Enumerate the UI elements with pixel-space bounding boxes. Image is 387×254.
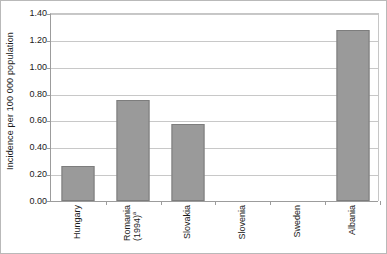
x-axis-category-label: Slovakia: [182, 205, 192, 239]
bar-slot: [270, 14, 325, 201]
x-axis-tickmark: [380, 201, 381, 205]
x-axis-label-line1: Hungary: [72, 205, 82, 239]
y-axis-tick-labels: 1.401.201.000.800.600.400.200.00: [19, 13, 50, 201]
y-axis-tick-label: 1.40: [29, 8, 47, 18]
bar-slot: [51, 14, 106, 201]
x-axis-category-label: Albania: [347, 205, 357, 235]
bar-slot: [216, 14, 271, 201]
x-axis-label-slot: Albania: [324, 205, 379, 254]
y-axis-title-text: Incidence per 100 000 population: [5, 32, 15, 170]
x-axis-label-line1: Slovakia: [182, 205, 192, 239]
y-axis-tick-label: 1.00: [29, 62, 47, 72]
x-axis-label-line1: Sweden: [292, 205, 302, 238]
x-axis-category-label: Romania(1994)a: [122, 205, 142, 241]
y-axis-tick-label: 0.20: [29, 169, 47, 179]
y-axis-tick-label: 0.60: [29, 115, 47, 125]
bar-slot: [106, 14, 161, 201]
y-axis-tick-label: 0.00: [29, 196, 47, 206]
bar: [62, 166, 95, 201]
y-axis-tick-label: 1.20: [29, 35, 47, 45]
bar-slot: [161, 14, 216, 201]
bar-chart-figure: Incidence per 100 000 population 1.401.2…: [0, 0, 387, 254]
footnote-marker: a: [131, 212, 137, 215]
x-axis-label-slot: Slovenia: [215, 205, 270, 254]
x-axis-category-labels: HungaryRomania(1994)aSlovakiaSloveniaSwe…: [50, 205, 379, 254]
bar-slot: [325, 14, 380, 201]
bar: [117, 100, 150, 201]
x-axis-category-label: Sweden: [292, 205, 302, 238]
bar: [336, 30, 369, 201]
y-axis-tick-label: 0.80: [29, 89, 47, 99]
x-axis-label-slot: Hungary: [50, 205, 105, 254]
x-axis-label-line1: Albania: [347, 205, 357, 235]
x-axis-label-line2: (1994)a: [132, 205, 142, 241]
x-axis-label-slot: Romania(1994)a: [105, 205, 160, 254]
x-axis-label-slot: Sweden: [269, 205, 324, 254]
plot-area: [50, 13, 379, 201]
x-axis-category-label: Slovenia: [237, 205, 247, 240]
y-axis-tick-label: 0.40: [29, 142, 47, 152]
x-axis-label-slot: Slovakia: [160, 205, 215, 254]
y-axis-title: Incidence per 100 000 population: [1, 1, 19, 201]
bar: [172, 124, 205, 201]
x-axis-label-line1: Slovenia: [237, 205, 247, 240]
x-axis-label-line1: Romania: [122, 205, 132, 241]
bar-series: [51, 14, 378, 201]
y-axis-tickmark: [47, 201, 51, 202]
x-axis-category-label: Hungary: [72, 205, 82, 239]
